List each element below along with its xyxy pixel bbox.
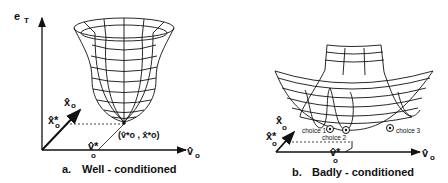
minimum-point xyxy=(122,121,126,125)
choice-3-label: choice 3 xyxy=(396,127,421,134)
axis-e-sub: T xyxy=(24,16,29,25)
panel-b: choice 1 choice 2 choice 3 x̂ o x̂* o v̂… xyxy=(266,45,435,178)
axis-e-label: e xyxy=(14,10,20,22)
axis-v-sub-b: o xyxy=(430,153,435,162)
axis-x-label: x̂ xyxy=(64,96,71,108)
choice-1-label: choice 1 xyxy=(302,127,327,134)
v-star-sub: o xyxy=(91,151,96,160)
caption-b: Badly - conditioned xyxy=(312,166,414,178)
axis-x-sub: o xyxy=(71,101,76,110)
caption-b-letter: b. xyxy=(292,166,302,178)
x-star-sub-b: o xyxy=(272,139,277,148)
choice-3-marker xyxy=(387,125,394,132)
choice-2-label: choice 2 xyxy=(322,134,347,141)
diagram-canvas: e T x̂ o x̂* o v̂ o v̂* o (v̂*o , x̂*o) … xyxy=(0,0,448,183)
caption-a: Well - conditioned xyxy=(82,163,177,175)
axis-v-label-b: v̂ xyxy=(422,147,429,159)
x-star-sub: o xyxy=(55,121,60,130)
caption-a-letter: a. xyxy=(62,163,71,175)
minimum-label: (v̂*o , x̂*o) xyxy=(118,130,160,140)
projection-v-line-b xyxy=(345,141,352,152)
choice-1-marker xyxy=(327,126,334,133)
choice-2-marker xyxy=(343,127,350,134)
axis-v-sub: o xyxy=(195,151,200,160)
badly-conditioned-surface xyxy=(275,45,433,130)
axis-v-label: v̂ xyxy=(187,145,194,157)
panel-a: e T x̂ o x̂* o v̂ o v̂* o (v̂*o , x̂*o) … xyxy=(14,10,200,175)
v-star-sub-b: o xyxy=(333,156,338,165)
axis-x-sub-b: o xyxy=(282,123,287,132)
well-conditioned-surface xyxy=(74,18,174,122)
